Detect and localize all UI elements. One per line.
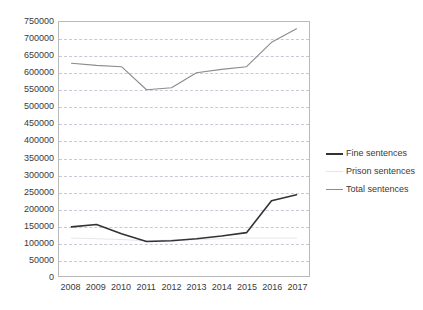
y-axis-tick-label: 700000 — [0, 34, 54, 43]
legend-swatch-icon — [326, 189, 343, 190]
y-axis-tick-label: 650000 — [0, 51, 54, 60]
series-layer — [59, 22, 309, 276]
series-line — [72, 29, 297, 90]
series-line — [72, 195, 297, 242]
legend-item-label: Total sentences — [346, 185, 409, 194]
line-chart: 0500001000001500002000002500003000003500… — [0, 0, 423, 310]
plot-area — [58, 21, 310, 277]
y-axis-tick-label: 300000 — [0, 170, 54, 179]
legend-swatch-icon — [326, 153, 343, 155]
y-axis-tick-label: 0 — [0, 273, 54, 282]
legend-swatch-icon — [326, 171, 343, 172]
legend-item-label: Fine sentences — [346, 149, 407, 158]
y-axis-tick-label: 450000 — [0, 119, 54, 128]
legend-item[interactable]: Fine sentences — [326, 146, 421, 161]
y-axis-tick-label: 500000 — [0, 102, 54, 111]
y-axis-tick-label: 250000 — [0, 187, 54, 196]
y-axis-tick-label: 150000 — [0, 221, 54, 230]
y-axis-tick-label: 400000 — [0, 136, 54, 145]
legend-item[interactable]: Prison sentences — [326, 164, 421, 179]
y-axis-tick-label: 350000 — [0, 153, 54, 162]
y-axis-tick-label: 600000 — [0, 68, 54, 77]
y-axis-tick-label: 50000 — [0, 255, 54, 264]
y-axis-tick-label: 750000 — [0, 17, 54, 26]
legend-item[interactable]: Total sentences — [326, 182, 421, 197]
y-axis-tick-label: 550000 — [0, 85, 54, 94]
legend-item-label: Prison sentences — [346, 167, 415, 176]
x-axis-tick-label: 2017 — [277, 283, 317, 292]
y-axis-tick-label: 200000 — [0, 204, 54, 213]
y-axis-tick-label: 100000 — [0, 238, 54, 247]
chart-legend: Fine sentencesPrison sentencesTotal sent… — [326, 146, 421, 200]
